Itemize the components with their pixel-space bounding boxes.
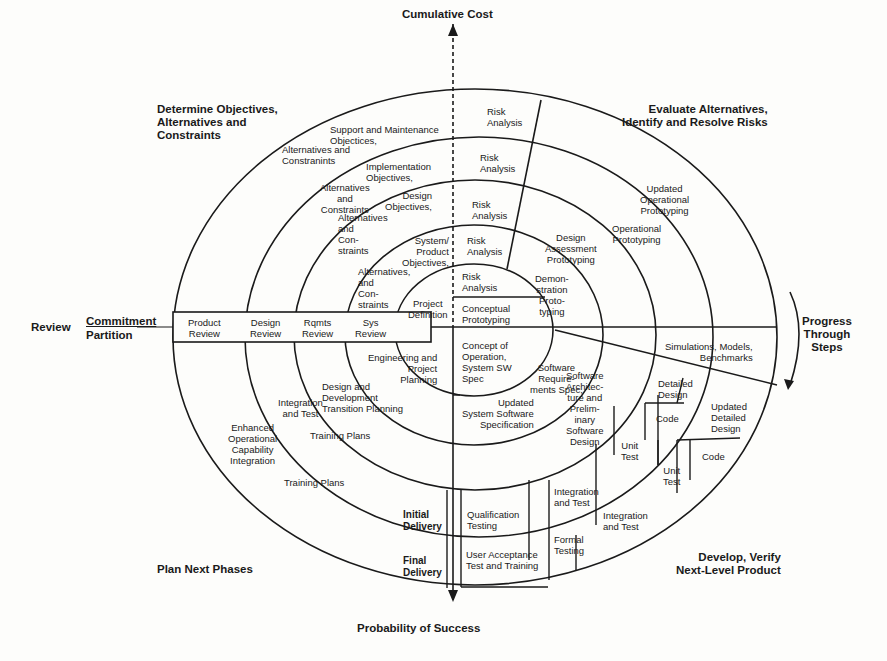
integration-test-2: Integration and Test: [603, 510, 648, 532]
partition-label: Partition: [86, 329, 133, 342]
simulations-models-benchmarks: Simulations, Models, Benchmarks: [665, 341, 753, 363]
initial-delivery: Initial Delivery: [403, 509, 442, 533]
updated-detailed-design: Updated Detailed Design: [711, 401, 747, 434]
risk-analysis-5: Risk Analysis: [487, 106, 522, 128]
software-architecture: Software Architec- ture and Prelim- inar…: [566, 370, 604, 447]
quadrant-evaluate-alternatives: Evaluate Alternatives, Identify and Reso…: [622, 103, 768, 129]
user-acceptance-test: User Acceptance Test and Training: [466, 549, 538, 571]
axis-probability-success: Probability of Success: [357, 622, 480, 635]
product-review: Product Review: [188, 317, 221, 339]
training-plans-2: Training Plans: [284, 477, 344, 488]
unit-test-1: Unit Test: [621, 440, 638, 462]
alternatives-constraints-2: Alternatives and Constraints: [320, 182, 370, 215]
integration-test-plan: Integration and Test: [278, 397, 323, 419]
project-definition: Project Definition: [408, 298, 448, 320]
design-review: Design Review: [250, 317, 281, 339]
axis-cumulative-cost: Cumulative Cost: [402, 8, 493, 21]
sys-review: Sys Review: [355, 317, 386, 339]
formal-testing: Formal Testing: [554, 534, 584, 556]
design-development-transition-planning: Design and Development Transition Planni…: [322, 381, 403, 414]
risk-analysis-2: Risk Analysis: [467, 235, 502, 257]
quadrant-determine-objectives: Determine Objectives, Alternatives and C…: [157, 103, 278, 142]
review-label: Review: [31, 321, 71, 334]
integration-test-1: Integration and Test: [554, 486, 599, 508]
code-1: Code: [656, 413, 679, 424]
commitment-label: Commitment: [86, 315, 156, 328]
quadrant-develop-verify: Develop, Verify Next-Level Product: [676, 551, 781, 577]
alternatives-constraints-3: Alternatives and Con- straints: [338, 212, 388, 256]
system-product-objectives: System/ Product Objectives,: [402, 235, 449, 268]
support-maintenance-objectives: Support and Maintenance Objectices,: [330, 124, 439, 146]
quadrant-plan-next: Plan Next Phases: [157, 563, 253, 576]
qualification-testing: Qualification Testing: [467, 509, 519, 531]
unit-test-2: Unit Test: [663, 465, 680, 487]
updated-operational-prototyping: Updated Operational Prototyping: [640, 183, 689, 216]
concept-of-operation: Concept of Operation, System SW Spec: [462, 340, 512, 384]
design-objectives: Design Objectives,: [385, 190, 432, 212]
alternatives-constraints-1: Alternatives and Constranints: [282, 144, 350, 166]
risk-analysis-3: Risk Analysis: [472, 199, 507, 221]
detailed-design: Detailed Design: [658, 378, 693, 400]
enhanced-operational-capability: Enhanced Operational Capability Integrat…: [228, 422, 277, 466]
final-delivery: Final Delivery: [403, 555, 442, 579]
demonstration-prototyping: Demon- stration Proto- typing: [535, 273, 569, 317]
training-plans-1: Training Plans: [310, 430, 370, 441]
implementation-objectives: Implementation Objectives,: [366, 161, 431, 183]
operational-prototyping: Operational Prototyping: [612, 223, 661, 245]
risk-analysis-1: Risk Analysis: [462, 271, 497, 293]
conceptual-prototyping: Conceptual Prototyping: [462, 303, 510, 325]
design-assessment-prototyping: Design Assessment Prototyping: [545, 232, 597, 265]
risk-analysis-4: Risk Analysis: [480, 152, 515, 174]
alternatives-constraints-4: Alternatives, and Con- straints: [358, 266, 410, 310]
progress-through-steps: Progress Through Steps: [802, 315, 852, 354]
system-software-specification: Updated System Software Specification: [462, 397, 534, 430]
spiral-diagram: Cumulative Cost Probability of Success D…: [0, 0, 887, 661]
code-2: Code: [702, 451, 725, 462]
rqmts-review: Rqmts Review: [302, 317, 333, 339]
